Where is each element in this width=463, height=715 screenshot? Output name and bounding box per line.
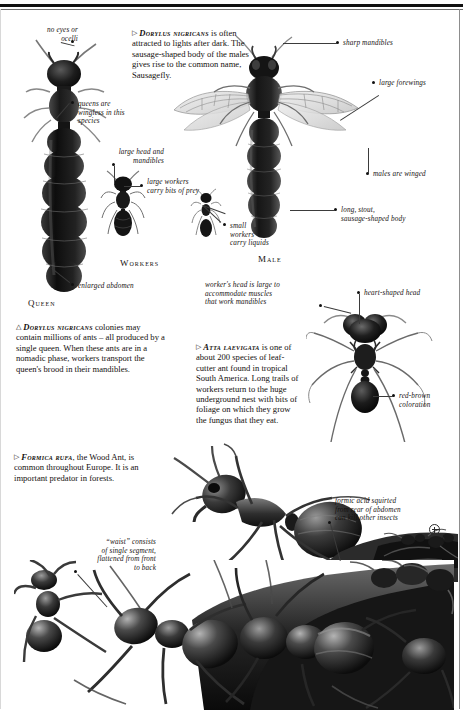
leader-heart-head [359, 294, 360, 324]
label-sharp-mandibles: sharp mandibles [343, 39, 427, 48]
label-red-brown-coloration: red-brown coloration [399, 392, 455, 409]
label-workers-head-muscles: worker's head is large to accommodate mu… [205, 281, 317, 307]
leader-red-brown [373, 396, 393, 397]
leader-males-winged [368, 148, 369, 173]
label-large-head-mandibles: large head and mandibles [96, 148, 164, 165]
label-large-forewings: large forewings [379, 79, 459, 88]
magnifier-icon [429, 524, 440, 535]
leader-large-workers [124, 186, 141, 187]
triangle-right-icon: ▷ [132, 29, 137, 37]
paragraph-formica: ▷ Formica rufa, the Wood Ant, is common … [14, 452, 154, 483]
label-males-are-winged: males are winged [373, 170, 455, 179]
label-long-stout-body: long, stout, sausage-shaped body [341, 206, 441, 223]
leader-sharp-mandibles [283, 43, 337, 44]
top-rule-thin [0, 9, 463, 10]
label-queens-wingless: queens are wingless in this species [78, 100, 140, 126]
triangle-right-icon-atta: ▷ [196, 343, 201, 351]
triangle-right-icon-formica: ▷ [14, 453, 19, 461]
paragraph-dorylus-colony: △ Dorylus nigricans colonies may contain… [16, 322, 166, 374]
paragraph-dorylus-male: ▷ Dorylus nigricans is often attracted t… [132, 28, 260, 80]
label-dot-large-forewings [372, 81, 375, 84]
species-name-atta: Atta laevigata [203, 342, 259, 352]
caption-workers: Workers [120, 258, 159, 268]
page-frame-left [0, 9, 1, 709]
paragraph-atta-text: is one of about 200 species of leaf-cutt… [196, 342, 298, 425]
label-formic-acid: formic acid squirted from rear of abdome… [335, 497, 451, 523]
caption-male: Male [258, 254, 282, 264]
species-name-dorylus-male: Dorylus nigricans [139, 28, 209, 38]
caption-queen: Queen [28, 298, 56, 308]
large-worker-ant-illustration [100, 168, 146, 248]
page-frame-right [459, 9, 460, 709]
label-waist-segment: “waist” consists of single segment, flat… [64, 538, 156, 572]
leader-long-stout [290, 210, 335, 211]
leader-large-head [114, 166, 115, 184]
label-enlarged-abdomen: enlarged abdomen [78, 282, 166, 291]
triangle-up-icon: △ [16, 323, 21, 331]
species-name-formica: Formica rufa [21, 452, 72, 462]
species-name-dorylus-colony: Dorylus nigricans [23, 322, 93, 332]
top-rule [0, 4, 463, 7]
ants-encyclopedia-page: no eyes or ocelli queens are wingless in… [0, 0, 463, 715]
wood-ants-group-photo [14, 560, 454, 710]
label-heart-shaped-head: heart-shaped head [364, 289, 448, 298]
paragraph-atta: ▷ Atta laevigata is one of about 200 spe… [196, 342, 302, 425]
